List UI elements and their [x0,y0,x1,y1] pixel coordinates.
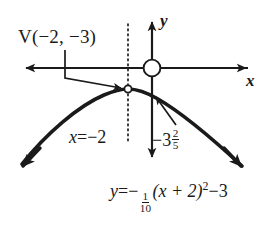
equation-binomial: (x + 2) [152,181,202,201]
equation-constant-sign: − [209,181,219,201]
vertex-open-circle-marker [124,85,131,92]
equation-fraction-denominator: 10 [139,203,152,214]
parabola-curve [22,89,242,166]
x-axis-label: x [246,72,255,89]
y-intercept-fraction-denominator: 5 [172,140,180,151]
vertex-label: V(−2, −3) [18,27,96,46]
equation-label: y=−110(x + 2)2−3 [110,181,228,215]
axis-of-symmetry-label-variable: x [69,127,77,147]
equation-equals: = [118,181,128,201]
equation-coefficient-fraction: 110 [139,191,152,215]
parabola-figure: V(−2, −3) y x x=−2 −325 y=−110(x + 2)2−3 [0,0,268,225]
equation-constant: 3 [219,181,228,201]
y-intercept-label-whole: −3 [152,131,171,149]
equation-leading-sign: − [128,181,138,201]
origin-open-circle-marker [144,60,161,77]
y-axis-label: y [160,12,168,29]
equation-lhs: y [110,181,118,201]
y-intercept-label-fraction: 25 [172,128,180,152]
y-intercept-callout-arrow [156,97,176,125]
axis-of-symmetry-label: x=−2 [69,128,106,146]
y-intercept-label: −325 [152,128,180,152]
parabola-right-arrow [224,148,241,166]
axis-of-symmetry-label-value: =−2 [77,127,106,147]
